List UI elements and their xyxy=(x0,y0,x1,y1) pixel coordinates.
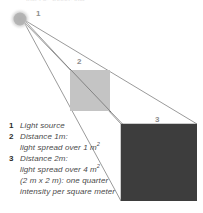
legend-row: light spread over 1 m2 xyxy=(9,142,129,153)
legend: 1 Light source 2 Distance 1m: light spre… xyxy=(9,120,129,197)
legend-number: 2 xyxy=(9,131,17,142)
legend-label: Light source xyxy=(20,120,65,131)
legend-number: 1 xyxy=(9,120,17,131)
legend-number: 3 xyxy=(9,153,17,164)
legend-row: light spread over 4 m2 xyxy=(9,164,129,175)
legend-label-text: light spread over 4 m xyxy=(20,165,97,174)
callout-number-1: 1 xyxy=(36,10,41,18)
legend-row: 1 Light source xyxy=(9,120,129,131)
legend-row: intensity per square meter xyxy=(9,186,129,197)
legend-row: 3 Distance 2m: xyxy=(9,153,129,164)
legend-label: (2 m x 2 m): one quarter xyxy=(20,175,108,186)
legend-label: light spread over 4 m2 xyxy=(20,164,100,175)
legend-superscript: 2 xyxy=(97,163,100,169)
inverse-square-law-figure: Inverse square law xyxy=(0,0,203,213)
light-source-core xyxy=(14,13,27,26)
legend-row: (2 m x 2 m): one quarter xyxy=(9,175,129,186)
legend-superscript: 2 xyxy=(97,141,100,147)
far-panel xyxy=(121,124,197,201)
legend-row: 2 Distance 1m: xyxy=(9,131,129,142)
legend-label: intensity per square meter xyxy=(20,186,115,197)
callout-number-3: 3 xyxy=(155,116,160,124)
legend-label: light spread over 1 m2 xyxy=(20,142,100,153)
legend-label-text: light spread over 1 m xyxy=(20,143,97,152)
legend-label: Distance 2m: xyxy=(20,153,68,164)
callout-number-2: 2 xyxy=(77,58,82,66)
legend-label: Distance 1m: xyxy=(20,131,68,142)
